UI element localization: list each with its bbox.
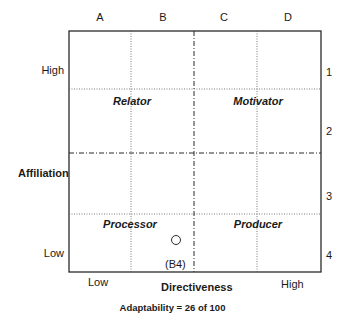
x-axis-title: Directiveness [161, 281, 233, 293]
column-label-c: C [214, 11, 234, 23]
marker-cell-label: (B4) [165, 258, 186, 270]
quadrant-label-producer: Producer [208, 218, 308, 230]
adaptability-score: Adaptability = 26 of 100 [0, 302, 345, 313]
column-label-b: B [153, 11, 173, 23]
column-label-a: A [90, 11, 110, 23]
y-axis-high-label: High [24, 64, 64, 76]
row-label-3: 3 [326, 190, 332, 202]
x-axis-high-label: High [281, 278, 304, 290]
quadrant-label-processor: Processor [80, 218, 180, 230]
y-axis-title: Affiliation [18, 167, 69, 179]
position-marker-icon [172, 236, 181, 245]
grid-frame [69, 31, 321, 272]
quadrant-label-motivator: Motivator [208, 95, 308, 107]
row-label-2: 2 [326, 125, 332, 137]
row-label-4: 4 [326, 249, 332, 261]
row-label-1: 1 [326, 66, 332, 78]
x-axis-low-label: Low [88, 276, 108, 288]
y-axis-low-label: Low [24, 247, 64, 259]
column-label-d: D [278, 11, 298, 23]
quadrant-label-relator: Relator [82, 95, 182, 107]
